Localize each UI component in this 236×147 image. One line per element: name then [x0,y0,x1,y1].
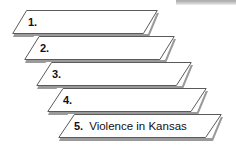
banner-body [36,62,192,86]
diagram-canvas: 1. 2. 3. 4. [0,0,236,147]
banner-body [24,36,175,60]
banner-body [12,10,158,34]
step-banner-2[interactable]: 2. [24,36,175,60]
banner-body [47,88,207,112]
step-banner-1[interactable]: 1. [12,10,158,34]
step-banner-3[interactable]: 3. [36,62,192,86]
step-banner-4[interactable]: 4. [47,88,207,112]
banner-body [58,114,222,138]
top-gray-strip [176,0,236,5]
step-banner-5[interactable]: 5. Violence in Kansas [58,114,222,138]
